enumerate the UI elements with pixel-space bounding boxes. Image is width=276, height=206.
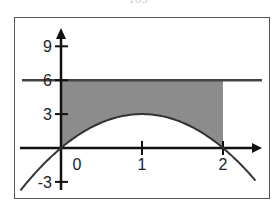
x-tick-label: 0	[73, 156, 82, 173]
x-tick-label: 1	[138, 156, 147, 173]
y-axis-arrow-icon	[56, 28, 66, 39]
y-tick-label: -3	[38, 174, 52, 191]
x-tick-label: 2	[219, 156, 228, 173]
y-tick-label: 3	[43, 106, 52, 123]
y-tick-label: 6	[43, 72, 52, 89]
x-axis-arrow-icon	[252, 143, 262, 153]
chart: 012963-3	[0, 0, 276, 206]
y-tick-label: 9	[43, 38, 52, 55]
